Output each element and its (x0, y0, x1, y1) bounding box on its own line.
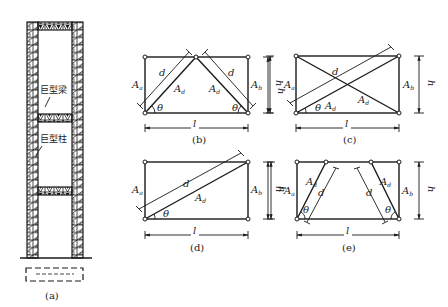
node (246, 160, 250, 164)
brace-area-label: Ad (194, 192, 206, 204)
width-label: l (193, 118, 196, 129)
height-label: h (274, 186, 285, 192)
mega-column-label: 巨型柱 (40, 133, 67, 144)
angle-label: θ (303, 204, 309, 215)
panel-a-mega-frame: 巨型梁 巨型柱 (a) (20, 22, 92, 301)
brace-left-inner (145, 57, 196, 113)
dim-tick (238, 150, 244, 156)
panel-c-x-brace: Aa Ab d Ad Ad θ l h h (c) (266, 44, 437, 145)
mega-beam-lower (38, 187, 72, 195)
angle-arc (305, 108, 306, 113)
mega-beam-label: 巨型梁 (40, 84, 67, 95)
frame-rect (297, 162, 399, 219)
figure-canvas: 巨型梁 巨型柱 (a) Aa Ab d d Ad Ad θ (0, 0, 448, 307)
mega-column-right (72, 22, 83, 258)
angle-arc (238, 106, 241, 113)
angle-label: θ (315, 102, 321, 113)
mega-beam-top (38, 22, 72, 30)
angle-label: θ (232, 102, 238, 113)
brace-area-label: Ad (173, 83, 185, 95)
mega-beam-middle (38, 114, 72, 122)
brace-length-label: d (332, 66, 338, 77)
column-right-label: Ab (402, 79, 414, 91)
node (397, 54, 401, 58)
angle-label: θ (385, 204, 391, 215)
panel-d-single-diagonal: Aa Ab d Ad θ l (d) (131, 150, 273, 253)
node (397, 217, 401, 221)
brace-right-outer (205, 52, 253, 106)
brace-area-label: Ad (379, 176, 391, 188)
height-label: h (274, 80, 285, 86)
node (397, 160, 401, 164)
brace-length-label: d (366, 187, 372, 198)
panel-b-caption: (b) (192, 134, 206, 145)
width-label: l (193, 225, 196, 236)
node (246, 111, 250, 115)
panel-d-caption: (d) (190, 242, 204, 253)
brace-length-label: d (318, 187, 324, 198)
node (143, 160, 147, 164)
panel-a-caption: (a) (45, 290, 59, 301)
brace-area-label: Ad (324, 100, 336, 112)
angle-arc (391, 212, 395, 219)
column-right-label: Ab (250, 79, 262, 91)
column-left-label: Aa (131, 79, 143, 91)
column-right-label: Ab (250, 184, 262, 196)
node (194, 55, 198, 59)
node (143, 111, 147, 115)
angle-label: θ (163, 208, 169, 219)
node (294, 111, 298, 115)
node (294, 54, 298, 58)
panel-b-chevron-brace: Aa Ab d d Ad Ad θ θ l (b) (131, 49, 273, 145)
node (369, 160, 373, 164)
panel-e-knee-brace: Aa Ab Ad Ad d d θ θ l h h (e) (267, 160, 437, 253)
angle-arc (152, 106, 155, 113)
node (324, 160, 328, 164)
panel-e-caption: (e) (342, 242, 356, 253)
brace-area-label: Ad (305, 176, 317, 188)
diagonal-brace (145, 162, 248, 219)
panel-c-caption: (c) (343, 134, 357, 145)
node (246, 217, 250, 221)
node (143, 55, 147, 59)
node (246, 55, 250, 59)
mega-beam-leader (45, 97, 50, 107)
foundation-outline (26, 268, 83, 281)
column-right-label: Ab (401, 185, 413, 197)
height-label: h (426, 80, 437, 86)
dim-tick (287, 100, 293, 106)
mega-column-left (27, 22, 38, 258)
node (295, 217, 299, 221)
angle-label: θ (157, 102, 163, 113)
node (143, 217, 147, 221)
brace-left-outer (140, 52, 189, 106)
brace-area-label: Ad (208, 83, 220, 95)
brace-length-label: d (183, 178, 189, 189)
width-label: l (346, 225, 349, 236)
brace-length-label: d (159, 67, 165, 78)
dim-tick (388, 44, 394, 50)
brace-right-inner (196, 57, 248, 113)
angle-arc (154, 214, 155, 219)
node (295, 160, 299, 164)
height-label: h (276, 88, 287, 94)
column-left-label: Aa (131, 184, 143, 196)
node (397, 111, 401, 115)
width-label: l (345, 118, 348, 129)
height-label: h (426, 186, 437, 192)
dim-tick (136, 206, 142, 212)
brace-length-label: d (228, 67, 234, 78)
